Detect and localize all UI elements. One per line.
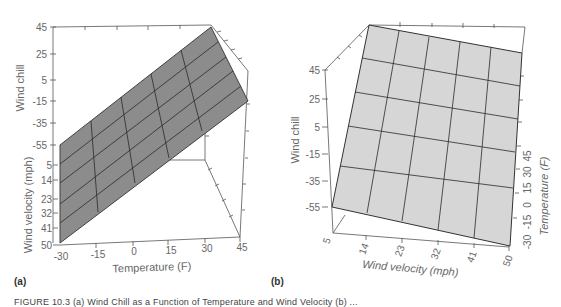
svg-text:14: 14 (357, 241, 371, 256)
bottom-axis-line-b (333, 233, 509, 247)
svg-text:-15: -15 (91, 249, 106, 260)
svg-text:-35: -35 (33, 118, 48, 129)
svg-text:50: 50 (501, 253, 515, 268)
top-axis-line (53, 25, 211, 27)
svg-text:5: 5 (321, 236, 333, 245)
surface-b (332, 25, 522, 246)
svg-text:-30: -30 (54, 251, 69, 262)
left-axis-line-b (325, 70, 333, 233)
floor-depth-line (205, 160, 240, 237)
svg-text:-15: -15 (306, 149, 321, 160)
svg-text:14: 14 (41, 175, 53, 186)
xlabel-b: Wind velocity (mph) (362, 258, 459, 278)
svg-text:25: 25 (36, 49, 48, 60)
figure-caption: FIGURE 10.3 (a) Wind Chill as a Function… (14, 297, 358, 307)
panel-label-a: (a) (14, 276, 26, 287)
xlabel-a: Temperature (F) (112, 260, 191, 275)
svg-text:30: 30 (201, 243, 213, 254)
svg-text:15: 15 (165, 245, 177, 256)
chart-a: 45 25 5 -15 -35 -55 5 14 23 32 41 50 -30… (0, 0, 290, 290)
ylabel-a: Wind velocity (mph) (22, 157, 34, 254)
zlabel-a: Wind chill (14, 64, 26, 111)
svg-text:-30: -30 (522, 234, 533, 249)
svg-text:45: 45 (522, 150, 533, 162)
svg-text:45: 45 (36, 22, 48, 33)
top-back-line (369, 25, 525, 27)
svg-text:-35: -35 (306, 176, 321, 187)
svg-text:23: 23 (393, 243, 407, 258)
svg-text:30: 30 (522, 166, 533, 178)
svg-text:-15: -15 (33, 96, 48, 107)
panel-label-b: (b) (271, 276, 284, 287)
svg-text:0: 0 (522, 202, 533, 208)
svg-text:23: 23 (41, 194, 53, 205)
zlabel-b: Wind chill (289, 116, 301, 163)
svg-text:41: 41 (41, 223, 53, 234)
svg-text:41: 41 (465, 249, 479, 264)
surface-a (60, 27, 248, 243)
svg-text:32: 32 (41, 208, 53, 219)
svg-text:-55: -55 (306, 202, 321, 213)
svg-text:50: 50 (41, 240, 53, 251)
svg-text:5: 5 (314, 122, 320, 133)
svg-text:5: 5 (41, 75, 47, 86)
svg-text:25: 25 (309, 94, 321, 105)
svg-text:45: 45 (309, 65, 321, 76)
svg-text:15: 15 (522, 182, 533, 194)
svg-text:32: 32 (429, 246, 443, 261)
svg-text:-15: -15 (522, 214, 533, 229)
ylabel-b: Temperature (F) (538, 156, 550, 235)
bottom-axis-line (60, 237, 240, 245)
svg-text:0: 0 (131, 246, 137, 257)
svg-text:5: 5 (46, 160, 52, 171)
svg-text:-55: -55 (33, 140, 48, 151)
svg-text:45: 45 (236, 242, 248, 253)
